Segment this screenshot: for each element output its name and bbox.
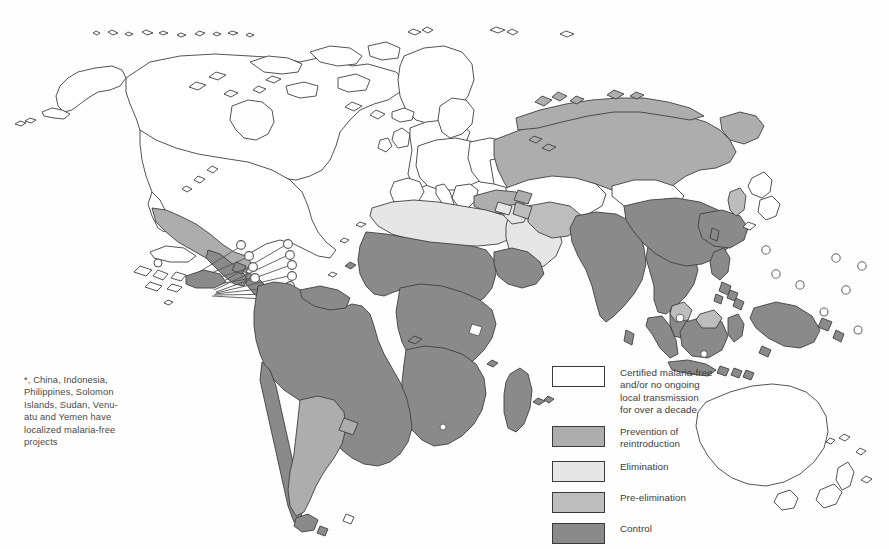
legend-item-elimination: Elimination — [552, 460, 782, 482]
legend-swatch-certified-malaria-free — [552, 366, 605, 387]
legend-label-pre-elimination: Pre-elimination — [620, 491, 686, 504]
map-legend: Certified malaria-free and/or no ongoing… — [552, 366, 782, 544]
legend-label-certified-malaria-free: Certified malaria-free and/or no ongoing… — [620, 366, 713, 416]
legend-item-control: Control — [552, 522, 782, 544]
legend-item-pre-elimination: Pre-elimination — [552, 491, 782, 513]
legend-swatch-control — [552, 523, 605, 544]
map-figure: .ln{fill:none;stroke:#555;stroke-width:0… — [0, 0, 889, 549]
legend-swatch-pre-elimination — [552, 492, 605, 513]
legend-label-control: Control — [620, 522, 652, 535]
legend-label-elimination: Elimination — [620, 460, 668, 473]
legend-swatch-prevention-of-reintroduction — [552, 426, 605, 447]
legend-item-certified-malaria-free: Certified malaria-free and/or no ongoing… — [552, 366, 782, 416]
footnote-text: *, China, Indonesia, Philippines, Solomo… — [24, 374, 142, 448]
legend-item-prevention-of-reintroduction: Prevention of reintroduction — [552, 425, 782, 451]
legend-label-prevention-of-reintroduction: Prevention of reintroduction — [620, 425, 680, 451]
legend-swatch-elimination — [552, 461, 605, 482]
